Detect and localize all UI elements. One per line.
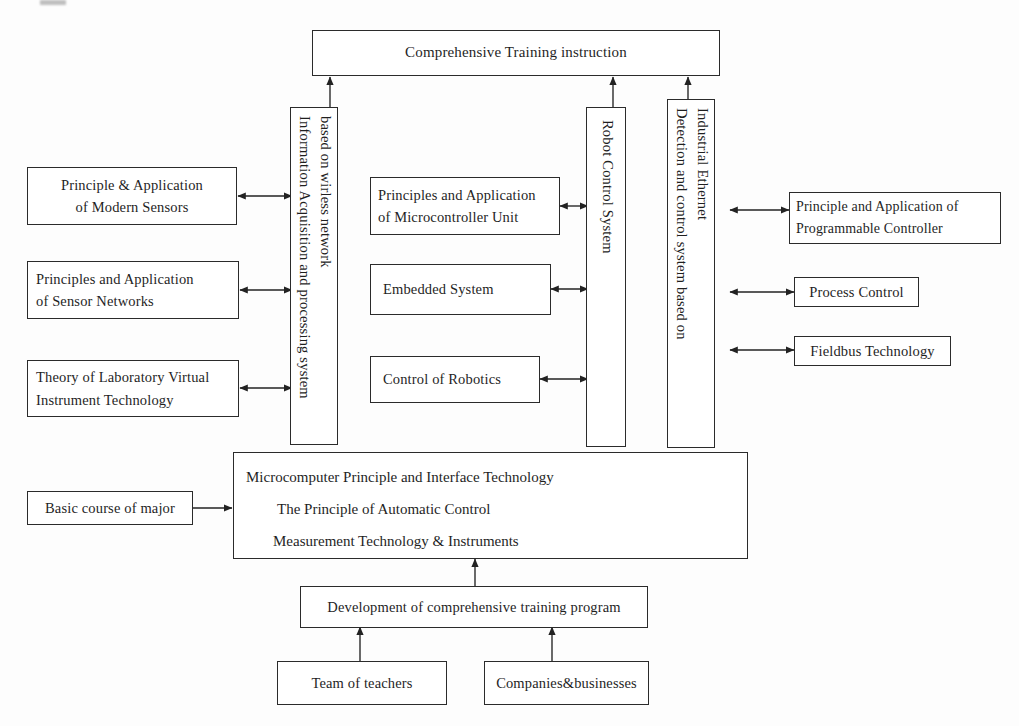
industrial-ethernet-line2: Industrial Ethernet [694,108,711,220]
development-program-box[interactable]: Development of comprehensive training pr… [300,586,648,628]
sensor-networks-line2: of Sensor Networks [36,290,154,312]
core-courses-line3: Measurement Technology & Instruments [273,533,519,550]
embedded-system-box[interactable]: Embedded System [370,264,551,315]
process-control-label: Process Control [809,281,903,303]
comprehensive-training-instruction-box[interactable]: Comprehensive Training instruction [312,30,720,76]
modern-sensors-box[interactable]: Principle & Application of Modern Sensor… [27,167,237,225]
microcontroller-box[interactable]: Principles and Application of Microcontr… [370,177,560,235]
programmable-controller-box[interactable]: Principle and Application of Programmabl… [789,192,1001,244]
fieldbus-technology-label: Fieldbus Technology [810,340,934,362]
modern-sensors-line2: of Modern Sensors [76,196,189,218]
information-acquisition-column[interactable]: Information Acquisition and processing s… [290,107,338,445]
top-box-label: Comprehensive Training instruction [405,41,627,64]
control-of-robotics-box[interactable]: Control of Robotics [370,356,540,403]
team-of-teachers-box[interactable]: Team of teachers [277,661,447,705]
core-courses-box[interactable]: Microcomputer Principle and Interface Te… [233,452,748,559]
robot-control-column[interactable]: Robot Control System [586,107,626,447]
basic-course-label: Basic course of major [45,497,175,519]
team-of-teachers-label: Team of teachers [311,672,412,694]
robot-control-line1: Robot Control System [599,120,616,254]
basic-course-box[interactable]: Basic course of major [27,491,193,525]
modern-sensors-line1: Principle & Application [61,174,203,196]
companies-businesses-label: Companies&businesses [496,672,637,694]
sensor-networks-line1: Principles and Application [36,268,194,290]
sensor-networks-box[interactable]: Principles and Application of Sensor Net… [27,261,239,319]
programmable-controller-line1: Principle and Application of [796,196,958,218]
virtual-instrument-line2: Instrument Technology [36,389,174,411]
microcontroller-line2: of Microcontroller Unit [378,206,518,228]
core-courses-line2: The Principle of Automatic Control [277,501,490,518]
virtual-instrument-line1: Theory of Laboratory Virtual [36,366,209,388]
embedded-system-label: Embedded System [383,278,494,300]
programmable-controller-line2: Programmable Controller [796,218,943,240]
virtual-instrument-box[interactable]: Theory of Laboratory Virtual Instrument … [27,360,239,417]
scan-artifact [40,0,66,5]
microcontroller-line1: Principles and Application [378,184,536,206]
information-acquisition-line1: Information Acquisition and processing s… [296,116,313,399]
information-acquisition-line2: based on wirless network [317,116,334,268]
industrial-ethernet-column[interactable]: Detection and control system based on In… [667,99,715,448]
industrial-ethernet-line1: Detection and control system based on [673,108,690,340]
core-courses-line1: Microcomputer Principle and Interface Te… [246,469,554,486]
fieldbus-technology-box[interactable]: Fieldbus Technology [794,336,951,366]
control-of-robotics-label: Control of Robotics [383,368,501,390]
companies-businesses-box[interactable]: Companies&businesses [484,661,649,705]
development-program-label: Development of comprehensive training pr… [327,596,620,618]
process-control-box[interactable]: Process Control [794,277,919,307]
diagram-canvas: Comprehensive Training instruction Infor… [0,0,1019,726]
